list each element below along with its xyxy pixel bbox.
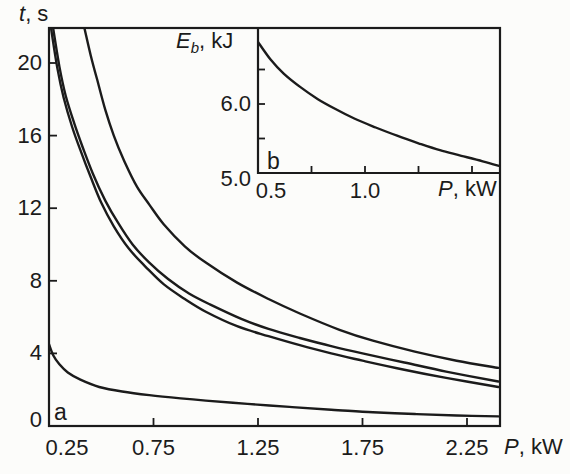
inset-x-tick-label: 0.5 — [243, 178, 299, 204]
inset-y-tick-label: 6.0 — [211, 91, 251, 117]
curve-middle-lower-curve — [51, 29, 498, 388]
main-y-tick-label: 20 — [6, 50, 42, 76]
main-x-tick-label: 0.75 — [122, 435, 186, 461]
main-y-axis-title: t, s — [19, 2, 48, 26]
main-x-axis-variable: P — [504, 434, 519, 459]
main-y-tick-label: 12 — [6, 195, 42, 221]
main-y-tick-label: 0 — [6, 407, 42, 433]
inset-x-axis-variable: P — [438, 176, 453, 201]
main-y-axis-unit: , s — [25, 1, 48, 26]
plot-canvas — [0, 0, 570, 474]
main-y-tick-label: 16 — [6, 123, 42, 149]
inset-x-axis-unit: , kW — [453, 176, 497, 201]
main-plot-frame — [49, 28, 500, 426]
inset-y-axis-unit: , kJ — [199, 28, 233, 53]
figure: t, s P, kW Eb, kJ P, kW a b 0481216200.2… — [0, 0, 570, 474]
inset-y-axis-subscript: b — [191, 39, 199, 56]
main-x-tick-label: 1.25 — [226, 435, 290, 461]
panel-a-label: a — [54, 400, 67, 425]
inset-x-tick-label: 1.0 — [337, 178, 393, 204]
inset-plot-frame — [258, 28, 500, 173]
main-y-tick-label: 8 — [6, 268, 42, 294]
curve-middle-upper-curve — [53, 29, 498, 382]
main-x-axis-unit: , kW — [519, 434, 563, 459]
inset-y-axis-title: Eb, kJ — [176, 29, 233, 57]
main-x-axis-title: P, kW — [504, 435, 563, 459]
main-x-tick-label: 0.25 — [35, 435, 99, 461]
main-x-tick-label: 2.25 — [435, 435, 499, 461]
inset-y-axis-variable: E — [176, 28, 191, 53]
panel-b-label: b — [267, 149, 280, 174]
inset-x-axis-title: P, kW — [438, 177, 497, 201]
inset-curve-eb-curve — [258, 42, 500, 166]
main-y-tick-label: 4 — [6, 340, 42, 366]
main-x-tick-label: 1.75 — [331, 435, 395, 461]
